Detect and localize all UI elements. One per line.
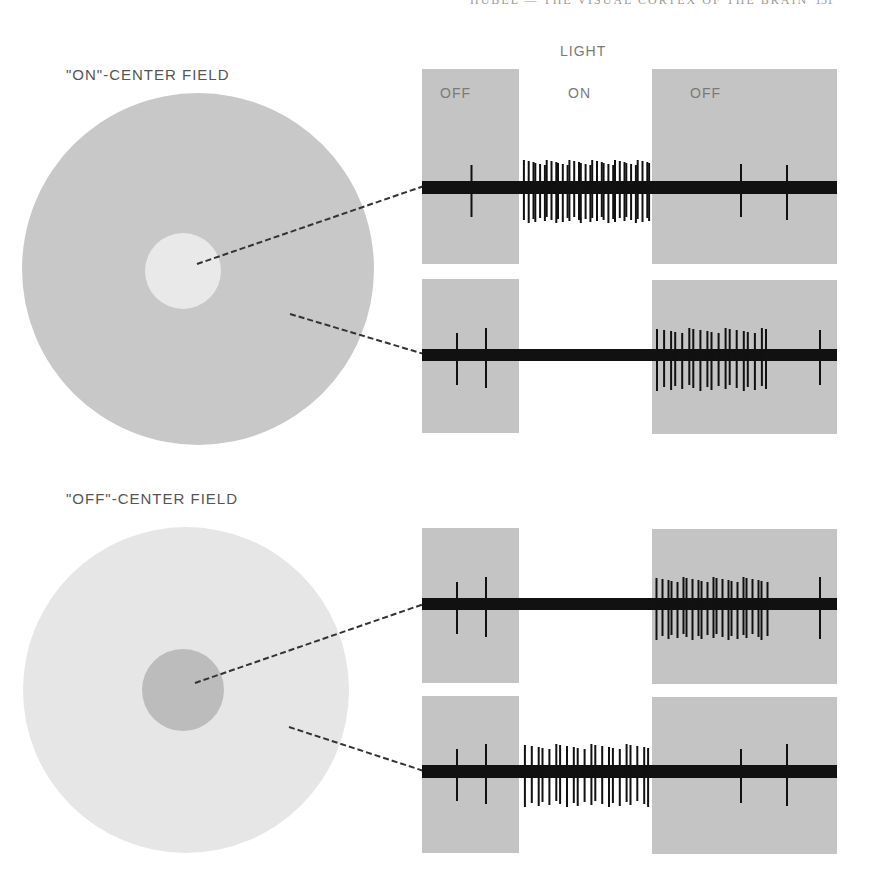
off-center-center-region bbox=[142, 649, 224, 731]
receptive-field-diagram bbox=[0, 0, 872, 870]
action-potential-spikes bbox=[457, 160, 820, 807]
trace-baselines bbox=[422, 181, 837, 778]
on-center-center-region bbox=[145, 233, 221, 309]
